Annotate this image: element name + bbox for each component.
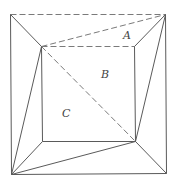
- segment-inner-br-to-outer-bl: [12, 142, 136, 175]
- segment-outer-bl-to-inner-bl: [12, 142, 43, 175]
- segment-outer-tr-to-inner-tr: [135, 15, 166, 47]
- diagram-labels: A B C: [62, 29, 131, 120]
- segment-inner-tl-to-outer-bl: [12, 47, 42, 175]
- segment-inner-tl-to-outer-tr: [42, 15, 166, 47]
- segment-inner-tr-to-inner-br: [135, 47, 136, 142]
- region-label-a: A: [122, 29, 131, 42]
- segment-outer-tr-to-outer-br: [166, 15, 167, 174]
- segment-inner-br-to-outer-tr: [136, 15, 166, 142]
- diagram-segments: [11, 15, 167, 175]
- segment-outer-tl-to-inner-tl: [11, 15, 42, 47]
- region-label-b: B: [100, 68, 109, 81]
- segment-inner-tl-to-inner-br: [42, 47, 136, 142]
- segment-outer-bl-to-outer-br: [12, 174, 167, 175]
- square-dissection-diagram: A B C: [0, 0, 176, 181]
- segment-outer-tl-to-outer-bl: [11, 15, 12, 175]
- region-label-c: C: [62, 107, 71, 120]
- segment-inner-tl-to-inner-bl: [42, 47, 43, 142]
- segment-outer-br-to-inner-br: [136, 142, 167, 174]
